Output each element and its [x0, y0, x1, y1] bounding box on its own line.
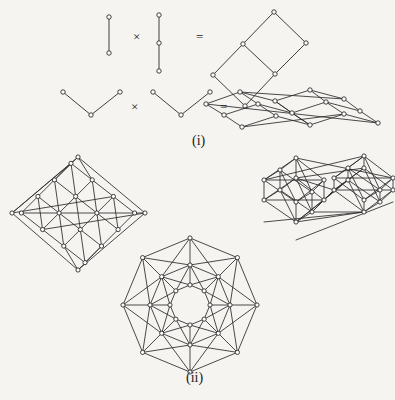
- equals-operator: =: [196, 29, 203, 45]
- multiplication-operator: ×: [131, 99, 138, 115]
- part-label-ii: (ii): [186, 370, 203, 386]
- multiplication-operator: ×: [133, 29, 140, 45]
- equals-operator: =: [220, 99, 227, 115]
- graph-diagram-canvas: [0, 0, 395, 400]
- part-label-i: (i): [192, 133, 205, 149]
- canvas-background: [0, 0, 395, 400]
- figure-container: × = × = (i) (ii): [0, 0, 395, 400]
